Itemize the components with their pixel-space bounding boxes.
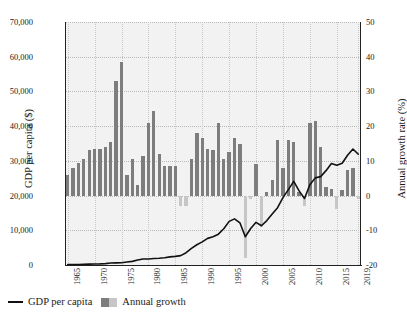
bar-marker-icon [101,298,117,307]
line-series-gdp-per-capita [65,22,361,265]
y-axis-right-tick-label: 30 [366,86,375,96]
x-axis-tick-label: 2019 [362,268,372,285]
y-axis-right-title: Annual growth rate (%) [396,59,407,239]
x-axis-tick-label: 1985 [179,268,189,285]
x-axis-tick-label: 1975 [126,268,136,285]
x-axis-line [65,265,362,266]
gdp-line-path [68,149,359,265]
y-axis-right-tick-label: 50 [366,17,375,27]
x-axis-tick-label: 1965 [72,268,82,285]
x-axis-tick-label: 1970 [99,268,109,285]
x-axis-tick-label: 1995 [233,268,243,285]
y-axis-left-line [65,22,66,266]
x-axis-tick-label: 1990 [206,268,216,285]
y-axis-left-tick-label: 60,000 [10,52,33,62]
y-axis-left-tick-label: 20,000 [10,191,33,201]
y-axis-left-tick-label: 30,000 [10,156,33,166]
x-axis-tick-label: 2005 [287,268,297,285]
line-marker-icon [8,301,23,303]
x-axis-tick-label: 2015 [341,268,351,285]
x-axis-tick-label: 2000 [260,268,270,285]
x-axis-tick-label: 2010 [314,268,324,285]
legend-item-annual-growth: Annual growth [101,297,185,308]
y-axis-right-tick-label: 10 [366,156,375,166]
y-axis-right-tick-label: 40 [366,52,375,62]
y-axis-left-tick-label: 40,000 [10,121,33,131]
y-axis-left-tick-label: 70,000 [10,17,33,27]
x-axis-tick-label: 1980 [152,268,162,285]
y-axis-right-tick-label: 20 [366,121,375,131]
plot-area [65,22,361,265]
y-axis-left-tick-label: 10,000 [10,225,33,235]
y-axis-right-tick-label: -10 [366,225,377,235]
legend-label-annual-growth: Annual growth [122,297,185,308]
legend-label-gdp-per-capita: GDP per capita [28,297,92,308]
y-axis-right-tick-label: 0 [366,191,370,201]
legend-item-gdp-per-capita: GDP per capita [8,297,92,308]
y-axis-right-line [360,22,361,266]
chart-legend: GDP per capita Annual growth [8,297,186,308]
y-axis-left-tick-label: 50,000 [10,86,33,96]
y-axis-left-tick-label: 0 [29,260,33,270]
